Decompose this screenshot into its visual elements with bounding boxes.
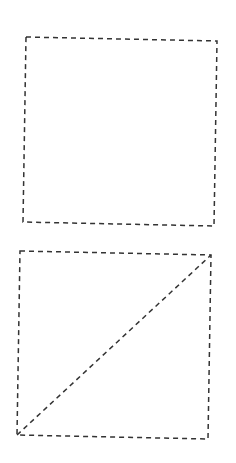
diagram-canvas [0, 0, 236, 463]
top-square-outline [23, 37, 217, 226]
dashed-square-bottom-with-diagonal [17, 251, 211, 439]
bottom-square-outline [17, 251, 211, 439]
dashed-square-top [23, 37, 217, 226]
bottom-square-diagonal [17, 255, 211, 435]
diagram-svg [0, 0, 236, 463]
